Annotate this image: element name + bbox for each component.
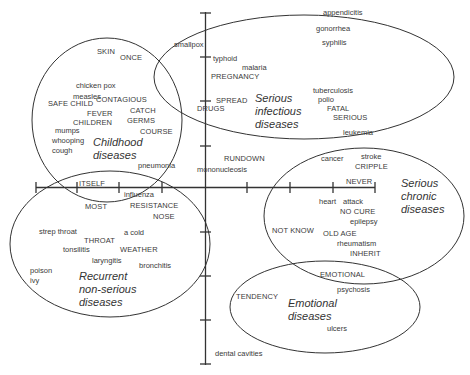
term-heart: heart xyxy=(319,198,336,206)
term-catch: CATCH xyxy=(130,107,156,115)
term-laryngitis: laryngitis xyxy=(92,257,122,265)
term-tuberculosis: tuberculosis xyxy=(313,87,353,95)
term-cough: cough xyxy=(52,147,72,155)
term-leukemia: leukemia xyxy=(343,129,373,137)
term-ivy: ivy xyxy=(30,277,39,285)
term-attack: attack xyxy=(343,198,363,206)
term-chicken-pox: chicken pox xyxy=(76,82,116,90)
term-fatal: FATAL xyxy=(327,105,349,113)
term-psychosis: psychosis xyxy=(337,286,370,294)
term-contagious: CONTAGIOUS xyxy=(96,96,147,104)
term-serious: SERIOUS xyxy=(333,114,367,122)
term-influenza: influenza xyxy=(124,191,154,199)
term-course: COURSE xyxy=(140,128,173,136)
term-pneumonia: pneumonia xyxy=(138,162,175,170)
term-bronchitis: bronchitis xyxy=(139,262,171,270)
term-tonsilitis: tonsilitis xyxy=(63,246,90,254)
term-syphilis: syphilis xyxy=(322,39,347,47)
term-cancer: cancer xyxy=(321,155,344,163)
term-safe-child: SAFE CHILD xyxy=(48,100,93,108)
term-malaria: malaria xyxy=(242,64,267,72)
term-inherit: INHERIT xyxy=(350,250,381,258)
term-mumps: mumps xyxy=(55,127,80,135)
term-whooping: whooping xyxy=(52,137,84,145)
term-mononucleosis: mononucleosis xyxy=(197,166,247,174)
cluster-title-emotional: Emotional diseases xyxy=(288,297,337,323)
term-rundown: RUNDOWN xyxy=(224,155,265,163)
term-polio: polio xyxy=(318,96,334,104)
term-once: ONCE xyxy=(120,54,142,62)
term-pregnancy: PREGNANCY xyxy=(211,73,259,81)
term-germs: GERMS xyxy=(127,117,155,125)
cluster-title-serious-chronic: Serious chronic diseases xyxy=(401,177,444,216)
term-gonorrhea: gonorrhea xyxy=(316,25,350,33)
term-epilepsy: epilepsy xyxy=(350,218,378,226)
term-never: NEVER xyxy=(346,178,372,186)
term-strep-throat: strep throat xyxy=(39,228,77,236)
term-ulcers: ulcers xyxy=(327,325,347,333)
term-resistance: RESISTANCE xyxy=(130,202,178,210)
term-old-age: OLD AGE xyxy=(323,230,357,238)
term-poison: poison xyxy=(30,267,52,275)
term-fever: FEVER xyxy=(87,110,113,118)
cluster-title-recurrent: Recurrent non-serious diseases xyxy=(79,270,136,309)
term-itself: ITSELF xyxy=(79,180,105,188)
cluster-title-childhood: Childhood diseases xyxy=(93,136,143,162)
term-no-cure: NO CURE xyxy=(340,208,375,216)
term-tendency: TENDENCY xyxy=(236,293,278,301)
term-nose: NOSE xyxy=(153,213,175,221)
term-typhoid: typhoid xyxy=(213,55,237,63)
term-skin: SKIN xyxy=(97,48,115,56)
term-rheumatism: rheumatism xyxy=(337,240,376,248)
term-smallpox: smallpox xyxy=(174,41,204,49)
term-drugs: DRUGS xyxy=(197,105,225,113)
term-a-cold: a cold xyxy=(124,229,144,237)
term-throat: THROAT xyxy=(84,237,115,245)
cluster-title-serious-infectious: Serious infectious diseases xyxy=(255,92,301,131)
term-appendicitis: appendicitis xyxy=(323,9,363,17)
term-weather: WEATHER xyxy=(120,246,158,254)
term-not-know: NOT KNOW xyxy=(272,227,314,235)
term-most: MOST xyxy=(85,203,107,211)
serious-infectious-cluster-ellipse xyxy=(154,15,454,139)
term-cripple: CRIPPLE xyxy=(355,163,388,171)
term-emotional: EMOTIONAL xyxy=(320,271,365,279)
term-dental-cavities: dental cavities xyxy=(215,350,263,358)
term-stroke: stroke xyxy=(361,153,381,161)
